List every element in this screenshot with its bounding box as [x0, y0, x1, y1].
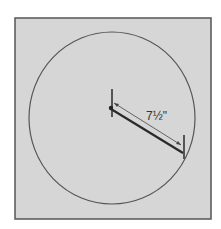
- dimension-label: 7½": [146, 109, 167, 123]
- circle-layout-diagram: 7½": [0, 0, 221, 229]
- square-panel: [15, 18, 211, 219]
